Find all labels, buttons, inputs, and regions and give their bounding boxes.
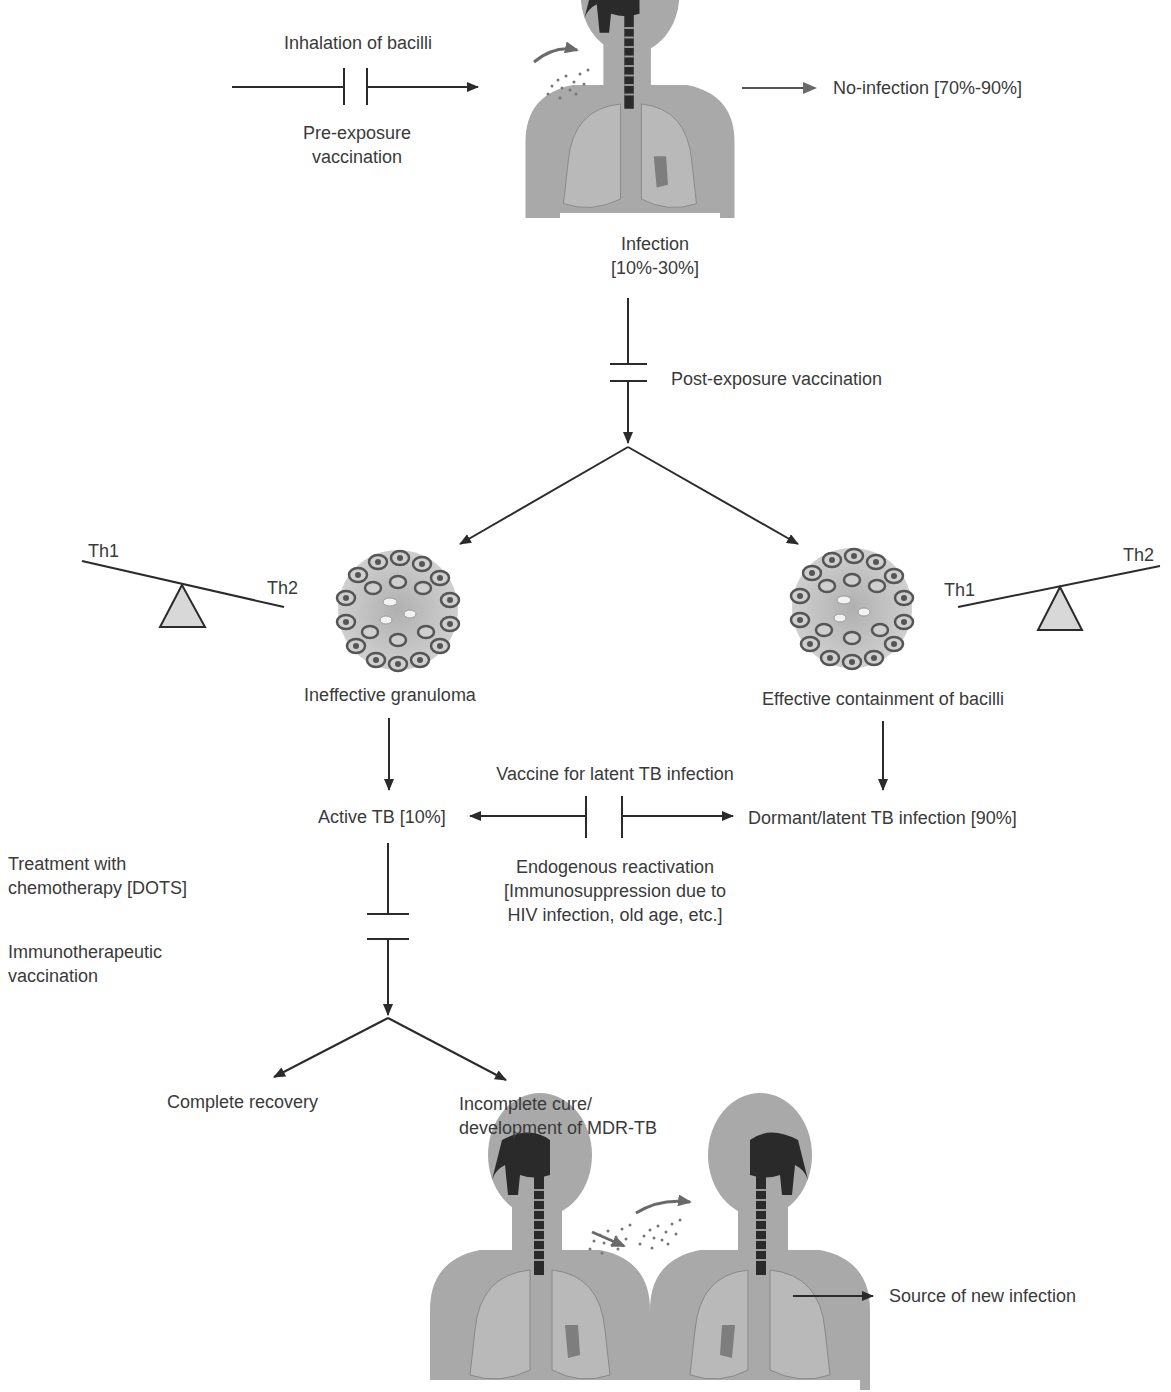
vaccine-latent-label: Vaccine for latent TB infection xyxy=(496,762,733,786)
th1-th2-balance-left xyxy=(82,561,284,627)
ineffective-granuloma-illustration xyxy=(337,550,459,671)
effective-granuloma-illustration xyxy=(791,548,913,669)
post-exposure-block-connector xyxy=(460,298,798,544)
incomplete-cure-label-line2: development of MDR-TB xyxy=(459,1116,657,1140)
th1-right-label: Th1 xyxy=(944,578,975,602)
complete-recovery-label: Complete recovery xyxy=(167,1090,318,1114)
latent-vaccine-block-connector xyxy=(470,796,733,838)
th2-left-label: Th2 xyxy=(267,576,298,600)
source-new-infection-label: Source of new infection xyxy=(889,1284,1076,1308)
effective-containment-label: Effective containment of bacilli xyxy=(762,687,1004,711)
pre-exposure-block-connector xyxy=(232,68,478,105)
incomplete-cure-label-line1: Incomplete cure/ xyxy=(459,1092,592,1116)
treatment-label-line2: chemotherapy [DOTS] xyxy=(8,876,187,900)
active-tb-label: Active TB [10%] xyxy=(318,805,446,829)
ineffective-granuloma-label: Ineffective granuloma xyxy=(304,683,476,707)
th1-th2-balance-right xyxy=(958,566,1160,630)
th1-left-label: Th1 xyxy=(88,539,119,563)
dormant-latent-label: Dormant/latent TB infection [90%] xyxy=(748,806,1017,830)
post-exposure-label: Post-exposure vaccination xyxy=(671,367,882,391)
endogenous-label-line2: [Immunosuppression due to xyxy=(504,879,726,903)
inhaling-person-illustration xyxy=(526,0,735,218)
endogenous-label-line3: HIV infection, old age, etc.] xyxy=(507,903,722,927)
immunotherapeutic-label-line2: vaccination xyxy=(8,964,98,988)
pre-exposure-label-line2: vaccination xyxy=(312,145,402,169)
immunotherapeutic-label-line1: Immunotherapeutic xyxy=(8,940,162,964)
no-infection-label: No-infection [70%-90%] xyxy=(833,76,1022,100)
endogenous-label-line1: Endogenous reactivation xyxy=(516,855,714,879)
infection-label-line1: Infection xyxy=(621,232,689,256)
th2-right-label: Th2 xyxy=(1123,543,1154,567)
pre-exposure-label-line1: Pre-exposure xyxy=(303,121,411,145)
infection-label-line2: [10%-30%] xyxy=(611,256,699,280)
treatment-block-connector xyxy=(274,843,506,1080)
treatment-label-line1: Treatment with xyxy=(8,852,126,876)
inhalation-label: Inhalation of bacilli xyxy=(284,31,432,55)
